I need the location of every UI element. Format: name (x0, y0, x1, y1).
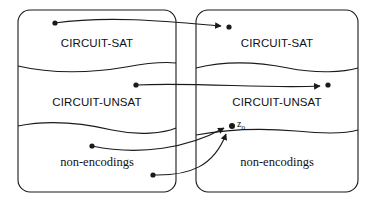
arrow-nonenc-upper-to-z0 (92, 128, 224, 150)
left-divider-upper (18, 63, 176, 72)
left-box (18, 10, 176, 192)
right-box (196, 10, 358, 192)
right-box-outline (196, 10, 358, 192)
set-mapping-diagram: CIRCUIT-SAT CIRCUIT-UNSAT non-encodings … (0, 0, 369, 205)
left-box-outline (18, 10, 176, 192)
point-src-unsat (133, 82, 138, 87)
point-src-nonenc-upper (89, 143, 94, 148)
arrow-nonenc-lower-to-z0 (153, 134, 226, 175)
point-dst-z0 (229, 123, 235, 129)
arrow-layer (55, 19, 320, 175)
point-layer (52, 20, 330, 177)
arrow-unsat-to-unsat (136, 84, 320, 87)
left-divider-lower (18, 123, 176, 134)
point-dst-sat (226, 24, 231, 29)
point-label-z0-subscript: 0 (241, 124, 245, 132)
diagram-canvas (0, 0, 369, 205)
point-dst-unsat (325, 82, 330, 87)
point-src-sat (52, 20, 57, 25)
right-divider-upper (196, 63, 358, 72)
point-src-nonenc-lower (150, 172, 155, 177)
point-label-z0: z0 (237, 118, 245, 132)
